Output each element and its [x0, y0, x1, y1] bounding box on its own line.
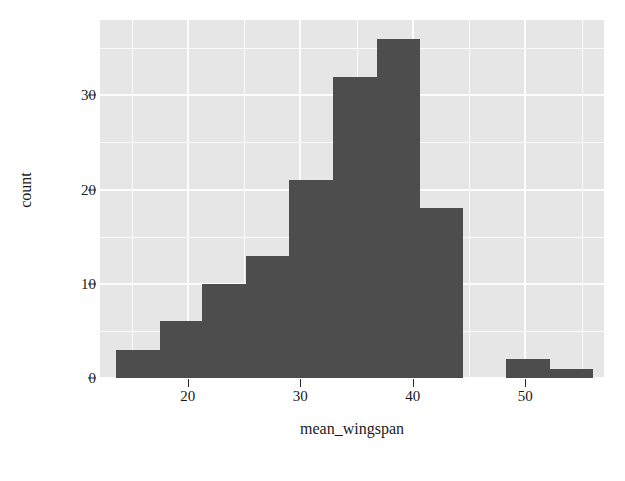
- x-tick-mark: [300, 379, 301, 387]
- histogram-bar: [160, 321, 203, 378]
- histogram-bar: [202, 284, 246, 378]
- y-axis-ticks: 0102030: [0, 0, 96, 481]
- histogram-bar: [550, 369, 593, 378]
- histogram-bar: [420, 208, 464, 378]
- histogram-bar: [289, 180, 333, 378]
- plot-panel: [100, 20, 604, 378]
- gridline-vertical-minor: [469, 20, 470, 378]
- x-tick-label: 40: [383, 389, 443, 404]
- x-tick-label: 20: [158, 389, 218, 404]
- gridline-horizontal-minor: [100, 48, 604, 49]
- y-tick-mark: [88, 95, 96, 96]
- histogram-bar: [377, 39, 420, 378]
- y-tick-mark: [88, 189, 96, 190]
- x-tick-label: 50: [495, 389, 555, 404]
- histogram-bar: [506, 359, 550, 378]
- x-tick-mark: [413, 379, 414, 387]
- x-tick-mark: [525, 379, 526, 387]
- histogram-bar: [246, 256, 289, 378]
- y-tick-mark: [88, 378, 96, 379]
- histogram-bar: [116, 350, 160, 378]
- x-tick-label: 30: [270, 389, 330, 404]
- gridline-vertical-minor: [132, 20, 133, 378]
- x-axis-title: mean_wingspan: [100, 420, 604, 438]
- gridline-vertical-major: [524, 20, 526, 378]
- x-tick-mark: [188, 379, 189, 387]
- x-axis-title-text: mean_wingspan: [300, 420, 404, 437]
- histogram-bar: [333, 77, 377, 378]
- y-tick-mark: [88, 283, 96, 284]
- gridline-vertical-minor: [582, 20, 583, 378]
- histogram-figure: count 0102030 mean_wingspan 20304050: [0, 0, 625, 481]
